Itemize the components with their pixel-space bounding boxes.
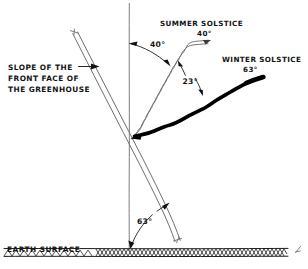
angle-63-ground-leader: 63° xyxy=(128,203,169,249)
winter-solstice-title: WINTER SOLSTICE xyxy=(222,55,301,64)
greenhouse-solar-angle-diagram: 40° 23° 63° SLOPE OF THE FRONT FACE OF T… xyxy=(0,0,308,269)
angle-23-leader: 23° xyxy=(178,60,203,96)
slope-callout-line3: THE GREENHOUSE xyxy=(8,85,90,94)
slope-callout-line1: SLOPE OF THE xyxy=(8,63,73,72)
slope-callout: SLOPE OF THE FRONT FACE OF THE GREENHOUS… xyxy=(8,63,100,94)
angle-40-leader: 40° xyxy=(129,40,171,66)
angle-40-label: 40° xyxy=(150,40,165,49)
earth-surface-label: EARTH SURFACE xyxy=(7,245,80,254)
summer-solstice-angle: 40° xyxy=(197,29,212,38)
earth-surface: EARTH SURFACE xyxy=(4,245,301,257)
winter-solstice-angle: 63° xyxy=(243,65,258,74)
summer-solstice-label: SUMMER SOLSTICE 40° xyxy=(160,19,243,38)
slope-callout-line2: FRONT FACE OF xyxy=(8,74,79,83)
angle-63-ground-label: 63° xyxy=(137,217,152,226)
summer-solstice-title: SUMMER SOLSTICE xyxy=(160,19,243,28)
winter-solstice-label: WINTER SOLSTICE 63° xyxy=(222,55,301,74)
angle-23-label: 23° xyxy=(183,77,198,86)
